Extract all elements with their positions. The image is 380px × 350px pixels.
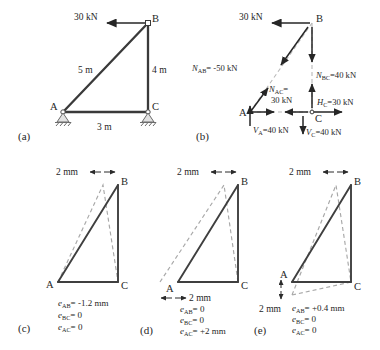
panel-b: 30 kN B NAB= -50 kN NBC=40 kN bbox=[191, 12, 357, 143]
force-label-b-VA: VA=40 kN bbox=[253, 125, 290, 136]
equations-d: eAB= 0 eBC= 0 eAC= +2 mm bbox=[180, 304, 226, 337]
force-value-b-NAC: = bbox=[283, 84, 288, 94]
svg-text:HC=30 kN: HC=30 kN bbox=[316, 97, 354, 108]
dim-label-a-BC: 4 m bbox=[152, 65, 167, 75]
eq-value-c-AC: = 0 bbox=[71, 322, 83, 332]
svg-text:VC=40 kN: VC=40 kN bbox=[306, 127, 342, 138]
joint-marker-b-C bbox=[310, 110, 314, 114]
panel-label-d: (d) bbox=[140, 324, 153, 337]
force-label-b-HC: HC=30 kN bbox=[316, 97, 354, 108]
eq-value-c-BC: = 0 bbox=[70, 310, 82, 320]
eq-value-c-AB: = -1.2 mm bbox=[71, 298, 109, 308]
force-value-b-NBC: =40 kN bbox=[330, 70, 357, 80]
truss-figure: 30 kN B A C 5 m 4 m 3 m bbox=[0, 0, 380, 350]
dim-2mm-e-top: 2 mm bbox=[289, 167, 348, 177]
panel-label-c: (c) bbox=[18, 322, 31, 335]
dim-label-e-top: 2 mm bbox=[289, 167, 312, 177]
panel-a: 30 kN B A C 5 m 4 m 3 m bbox=[18, 12, 167, 143]
load-label-a: 30 kN bbox=[74, 12, 98, 22]
equations-e: eAB= +0.4 mm eBC= 0 eAC= 0 bbox=[292, 303, 345, 336]
panel-label-a: (a) bbox=[18, 130, 31, 143]
eq-value-d-AB: = 0 bbox=[193, 304, 205, 314]
force-arrow-b-NAB bbox=[281, 27, 308, 65]
force-arrow-b-NAC-diag bbox=[251, 88, 268, 111]
dim-2mm-e-left: 2 mm bbox=[259, 280, 282, 314]
svg-text:eAB= -1.2 mm: eAB= -1.2 mm bbox=[58, 298, 108, 309]
eq-sub-e-AC: AC bbox=[296, 329, 305, 336]
node-label-e-A: A bbox=[280, 269, 288, 280]
force-value-b-HC: =30 kN bbox=[327, 97, 354, 107]
dim-2mm-d-top: 2 mm bbox=[177, 167, 236, 177]
svg-text:eAB= 0: eAB= 0 bbox=[180, 304, 205, 315]
panel-label-e: (e) bbox=[254, 324, 267, 337]
node-label-a-A: A bbox=[50, 101, 58, 112]
eq-value-e-AC: = 0 bbox=[305, 325, 317, 335]
eq-value-d-BC: = 0 bbox=[192, 315, 204, 325]
figure-canvas: 30 kN B A C 5 m 4 m 3 m bbox=[0, 0, 380, 350]
panel-d: 2 mm A B C 2 mm eAB= 0 eBC= 0 bbox=[140, 167, 248, 337]
node-label-d-C: C bbox=[241, 280, 248, 291]
dim-2mm-c: 2 mm bbox=[56, 167, 115, 177]
force-label-b-NAC: NAC= 30 kN bbox=[268, 84, 293, 105]
deformed-shape-e bbox=[292, 185, 351, 295]
force-value-b-NAB: = -50 kN bbox=[206, 63, 238, 73]
force-sub-b-NBC: BC bbox=[322, 74, 330, 81]
eq-sub-e-BC: BC bbox=[296, 318, 304, 325]
node-label-e-B: B bbox=[354, 176, 361, 187]
eq-sub-d-AB: AB bbox=[184, 308, 193, 315]
dim-label-a-AB: 5 m bbox=[78, 65, 93, 75]
node-label-c-C: C bbox=[121, 280, 128, 291]
eq-sub-c-AC: AC bbox=[62, 326, 71, 333]
dim-label-c-top: 2 mm bbox=[56, 167, 79, 177]
panel-e: 2 mm A B C 2 mm eAB= +0.4 mm eBC= bbox=[254, 167, 361, 337]
node-label-c-A: A bbox=[46, 279, 54, 290]
eq-value-e-AB: = +0.4 mm bbox=[305, 303, 345, 313]
force-label-b-NBC: NBC=40 kN bbox=[315, 70, 357, 81]
node-label-a-C: C bbox=[152, 101, 159, 112]
svg-text:eBC= 0: eBC= 0 bbox=[58, 310, 83, 321]
eq-value-d-AC: = +2 mm bbox=[193, 326, 226, 336]
svg-text:NAC=: NAC= bbox=[268, 84, 288, 95]
eq-sub-d-BC: BC bbox=[184, 319, 192, 326]
panel-label-b: (b) bbox=[196, 130, 209, 143]
dim-2mm-d-left: 2 mm bbox=[161, 293, 212, 303]
member-a-AB bbox=[63, 23, 148, 112]
svg-text:eAC= 0: eAC= 0 bbox=[292, 325, 317, 336]
svg-text:eAB= +0.4 mm: eAB= +0.4 mm bbox=[292, 303, 345, 314]
load-label-b: 30 kN bbox=[239, 12, 263, 22]
eq-sub-d-AC: AC bbox=[184, 330, 193, 337]
dim-label-a-AC: 3 m bbox=[97, 122, 112, 132]
force-label-b-VC: VC=40 kN bbox=[306, 127, 342, 138]
dim-label-e-left: 2 mm bbox=[259, 304, 282, 314]
member-c-AB bbox=[58, 185, 118, 282]
force-value-b-VA: =40 kN bbox=[263, 125, 290, 135]
svg-text:eBC= 0: eBC= 0 bbox=[292, 314, 317, 325]
eq-sub-c-AB: AB bbox=[62, 302, 71, 309]
node-label-c-B: B bbox=[121, 176, 128, 187]
svg-text:eAC= +2 mm: eAC= +2 mm bbox=[180, 326, 226, 337]
member-d-AB bbox=[178, 185, 238, 282]
joint-marker-a-B bbox=[146, 21, 151, 26]
svg-text:NBC=40 kN: NBC=40 kN bbox=[315, 70, 357, 81]
node-label-a-B: B bbox=[152, 13, 159, 24]
force-sub-b-NAC: AC bbox=[275, 88, 284, 95]
dim-label-d-left: 2 mm bbox=[189, 293, 212, 303]
node-label-b-B: B bbox=[316, 13, 323, 24]
node-label-b-C: C bbox=[315, 113, 322, 124]
eq-sub-e-AB: AB bbox=[296, 307, 305, 314]
node-label-d-A: A bbox=[166, 283, 174, 294]
dim-label-d-top: 2 mm bbox=[177, 167, 200, 177]
svg-text:VA=40 kN: VA=40 kN bbox=[253, 125, 290, 136]
force-value2-b-NAC: 30 kN bbox=[271, 95, 293, 105]
eq-sub-c-BC: BC bbox=[62, 314, 70, 321]
node-label-e-C: C bbox=[354, 281, 361, 292]
svg-text:NAB= -50 kN: NAB= -50 kN bbox=[191, 63, 238, 74]
node-label-b-A: A bbox=[239, 107, 247, 118]
node-label-d-B: B bbox=[241, 176, 248, 187]
svg-text:eAC= 0: eAC= 0 bbox=[58, 322, 83, 333]
panel-c: 2 mm A B C eAB= -1.2 mm eBC= 0 eAC= 0 bbox=[18, 167, 128, 335]
deformed-shape-d bbox=[160, 185, 238, 282]
svg-text:eBC= 0: eBC= 0 bbox=[180, 315, 205, 326]
equations-c: eAB= -1.2 mm eBC= 0 eAC= 0 bbox=[58, 298, 108, 333]
eq-value-e-BC: = 0 bbox=[304, 314, 316, 324]
